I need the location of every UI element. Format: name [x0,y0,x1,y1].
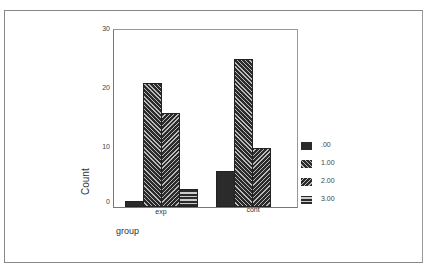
bar-cont-200 [252,148,271,207]
legend-item-100: 1.00 [301,160,381,170]
legend-swatch-hatch-right-icon [301,160,312,168]
bar-cont-100 [234,59,253,207]
x-tick-cont: cont [238,206,268,213]
legend-label: 2.00 [321,177,335,184]
y-tick-10: 10 [90,143,110,150]
y-tick-30: 30 [90,25,110,32]
legend-label: 1.00 [321,159,335,166]
legend-swatch-hatch-left-icon [301,178,312,186]
legend-swatch-stripes-icon [301,196,312,204]
y-axis-label: Count [80,168,91,195]
x-tick-exp: exp [146,208,176,215]
y-tick-20: 20 [90,84,110,91]
legend-item-00: .00 [301,142,381,152]
bar-exp-300 [179,189,198,207]
bar-exp-00 [125,201,144,207]
y-tick-0: 0 [90,198,110,205]
bar-exp-100 [143,83,162,207]
legend-label: 3.00 [321,195,335,202]
x-axis-label: group [116,226,139,236]
legend-item-200: 2.00 [301,178,381,188]
legend-label: .00 [321,141,331,148]
legend-item-300: 3.00 [301,196,381,206]
bar-exp-200 [161,113,180,207]
legend-swatch-solid-icon [301,142,312,150]
bar-cont-00 [216,171,235,207]
plot-area [113,29,298,208]
